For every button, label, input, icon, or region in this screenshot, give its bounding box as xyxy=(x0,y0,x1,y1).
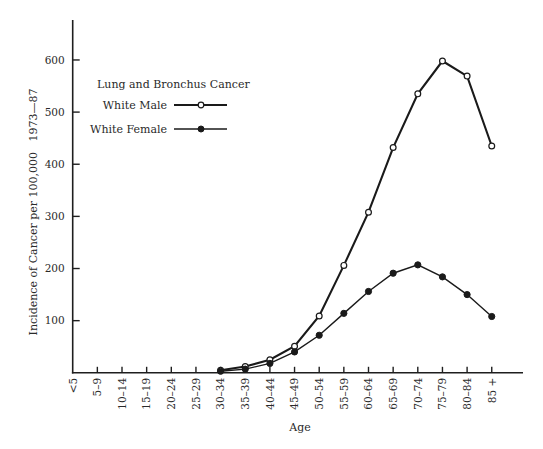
x-tick-label: 55–59 xyxy=(338,378,350,410)
x-tick-label: <5 xyxy=(67,378,79,393)
x-tick-label: 65–69 xyxy=(387,378,399,410)
data-point-white-male xyxy=(440,58,446,64)
x-tick-label: 15–19 xyxy=(140,378,152,410)
data-point-white-male xyxy=(415,91,421,97)
data-point-white-male xyxy=(366,209,372,215)
y-tick-label: 200 xyxy=(45,262,65,274)
x-tick-label: 45–49 xyxy=(288,378,300,410)
x-tick-label: 60–64 xyxy=(362,377,374,409)
data-point-white-female xyxy=(464,291,470,297)
y-tick-label: 600 xyxy=(45,54,65,66)
data-point-white-female xyxy=(267,360,273,366)
x-tick-label: 35–39 xyxy=(239,378,251,410)
x-tick-label: 20–24 xyxy=(165,377,177,409)
data-point-white-female xyxy=(365,288,371,294)
data-point-white-female xyxy=(489,313,495,319)
series-layer xyxy=(218,58,495,374)
data-point-white-male xyxy=(316,313,322,319)
x-tick-label: 25–29 xyxy=(190,378,202,410)
y-tick-label: 500 xyxy=(45,106,65,118)
data-point-white-male xyxy=(489,143,495,149)
y-ticks: 100200300400500600 xyxy=(45,54,80,327)
line-chart: 100200300400500600 <55–910–1415–1920–242… xyxy=(0,0,543,449)
series-line-white-male xyxy=(221,61,492,370)
legend: Lung and Bronchus Cancer White Male Whit… xyxy=(90,78,250,136)
series-line-white-female xyxy=(221,265,492,371)
legend-title: Lung and Bronchus Cancer xyxy=(97,78,250,91)
legend-marker-white-female xyxy=(198,126,204,132)
x-tick-label: 85 + xyxy=(486,378,498,404)
x-tick-label: 75–79 xyxy=(436,378,448,410)
data-point-white-female xyxy=(242,366,248,372)
x-tick-label: 70–74 xyxy=(412,377,424,409)
data-point-white-male xyxy=(390,145,396,151)
data-point-white-female xyxy=(439,274,445,280)
axes xyxy=(72,20,523,374)
x-tick-label: 5–9 xyxy=(91,378,103,397)
x-tick-label: 30–34 xyxy=(214,377,226,409)
x-tick-label: 80–84 xyxy=(461,377,473,409)
legend-marker-white-male xyxy=(198,102,204,108)
y-tick-label: 300 xyxy=(45,210,65,222)
data-point-white-female xyxy=(341,310,347,316)
data-point-white-female xyxy=(415,262,421,268)
x-axis-title: Age xyxy=(288,421,311,434)
data-point-white-male xyxy=(292,343,298,349)
y-axis-title: Incidence of Cancer per 100,000 1973—87 xyxy=(27,89,40,336)
data-point-white-male xyxy=(341,262,347,268)
data-point-white-female xyxy=(291,349,297,355)
x-tick-label: 50–54 xyxy=(313,377,325,409)
x-tick-label: 10–14 xyxy=(116,377,128,409)
data-point-white-female xyxy=(218,368,224,374)
data-point-white-female xyxy=(316,332,322,338)
legend-label-white-female: White Female xyxy=(90,123,167,136)
data-point-white-male xyxy=(464,73,470,79)
legend-label-white-male: White Male xyxy=(103,99,167,112)
y-tick-label: 400 xyxy=(45,158,65,170)
y-tick-label: 100 xyxy=(45,314,65,326)
x-tick-label: 40–44 xyxy=(264,377,276,409)
data-point-white-female xyxy=(390,270,396,276)
